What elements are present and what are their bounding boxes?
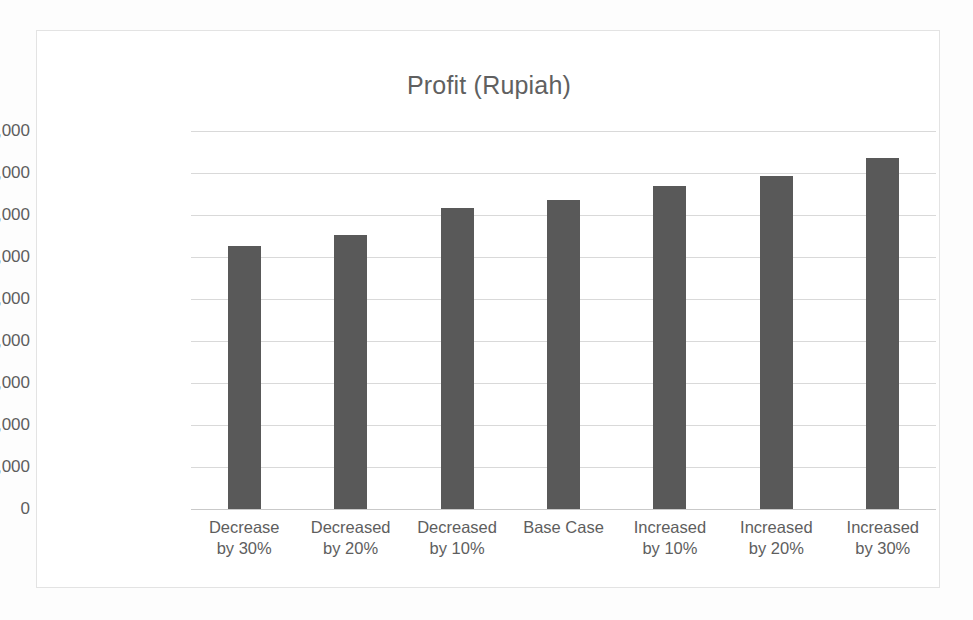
chart-area[interactable]: Profit (Rupiah) 0500,000,0001,000,000,00… — [36, 30, 940, 588]
gridline — [191, 173, 936, 174]
y-axis-tick-label: 3,500,000,000 — [0, 205, 30, 225]
chart-title: Profit (Rupiah) — [37, 71, 941, 100]
y-axis-tick-label: 4,500,000,000 — [0, 121, 30, 141]
x-axis-category-label: Base Case — [511, 517, 617, 538]
x-axis-category-label: Increased by 10% — [617, 517, 723, 559]
y-axis-tick-label: 3,000,000,000 — [0, 247, 30, 267]
y-axis-tick-label: 0 — [0, 499, 30, 519]
y-axis-tick-label: 2,000,000,000 — [0, 331, 30, 351]
bar[interactable] — [334, 235, 367, 509]
plot-area: 0500,000,0001,000,000,0001,500,000,0002,… — [191, 131, 936, 509]
bar[interactable] — [547, 200, 580, 509]
bar[interactable] — [228, 246, 261, 509]
x-axis-category-label: Increased by 30% — [830, 517, 936, 559]
bar[interactable] — [653, 186, 686, 509]
page-background: Profit (Rupiah) 0500,000,0001,000,000,00… — [0, 0, 973, 620]
x-axis-category-label: Decrease by 30% — [191, 517, 297, 559]
y-axis-tick-label: 1,000,000,000 — [0, 415, 30, 435]
x-axis-category-label: Decreased by 10% — [404, 517, 510, 559]
y-axis-tick-label: 2,500,000,000 — [0, 289, 30, 309]
bar[interactable] — [760, 176, 793, 509]
gridline — [191, 509, 936, 510]
y-axis-tick-label: 500,000,000 — [0, 457, 30, 477]
x-axis-category-label: Increased by 20% — [723, 517, 829, 559]
x-axis-category-label: Decreased by 20% — [298, 517, 404, 559]
bar[interactable] — [441, 208, 474, 509]
y-axis-tick-label: 1,500,000,000 — [0, 373, 30, 393]
gridline — [191, 131, 936, 132]
y-axis-tick-label: 4,000,000,000 — [0, 163, 30, 183]
bar[interactable] — [866, 158, 899, 509]
